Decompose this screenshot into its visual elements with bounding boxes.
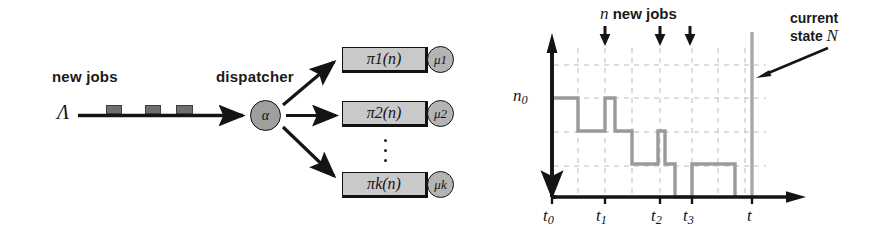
queue-policy-arg-1: (n) [383,50,402,67]
x-axis-tick-label-t3: t3 [683,207,694,227]
server-circle-1[interactable]: μ1 [427,46,454,73]
y-axis-tick-base: n [513,86,522,105]
server-rate-index-1: 1 [441,51,448,66]
queue-box-k[interactable]: πk(n) [342,172,428,198]
dispatcher-symbol: α [250,100,281,131]
x-axis-tick-base-4: t [747,206,752,225]
job-square [145,105,161,114]
x-axis-tick-sub-2: 2 [656,213,662,227]
queue-box-2[interactable]: π2(n) [342,101,428,127]
y-axis-tick-label-n0: n0 [513,87,528,107]
arrival-marker-arrows [600,26,696,46]
current-state-symbol: N [827,26,838,45]
queue-policy-base-2: π [367,104,375,121]
queue-policy-label-1: π1(n) [343,50,425,68]
server-rate-label-1: μ1 [428,51,453,67]
x-axis-tick-sub-3: 3 [688,213,694,227]
queue-ellipsis-dot [384,159,387,162]
current-state-pointer-arrow [756,48,828,78]
new-jobs-count-symbol: n [600,4,609,23]
queue-policy-arg-2: (n) [383,104,402,121]
queue-policy-arg-k: (n) [382,175,401,192]
queue-policy-label-2: π2(n) [343,104,425,122]
arrival-marker-arrow-1 [600,26,611,46]
server-rate-index-2: 2 [441,105,448,120]
server-circle-k[interactable]: μk [427,171,454,198]
current-state-line2: state N [790,26,838,46]
new-jobs-label: new jobs [52,68,118,85]
queue-policy-index-1: 1 [375,50,383,67]
new-jobs-annotation: n new jobs [600,4,677,24]
x-axis-tick-sub-0: 0 [548,213,554,227]
x-axis-tick-sub-1: 1 [601,213,607,227]
server-rate-label-2: μ2 [428,105,453,121]
x-axis-tick-label-t0: t0 [543,207,554,227]
queue-policy-base-k: π [367,175,375,192]
queue-length-step-curve [552,98,735,197]
server-rate-index-k: k [441,176,447,191]
server-rate-label-k: μk [428,176,453,192]
queue-ellipsis-dot [384,149,387,152]
figure-container: new jobs dispatcher Λ α π1(n) μ1 π2(n) μ… [0,0,879,252]
arrival-marker-arrow-2 [655,26,666,46]
x-axis-tick-label-t1: t1 [596,207,607,227]
new-jobs-annotation-text: new jobs [609,5,677,22]
current-state-line1: current [790,10,838,26]
current-state-line2-prefix: state [790,28,827,44]
arrival-marker-arrow-3 [685,26,696,46]
queue-ellipsis-dot [384,139,387,142]
queue-policy-base-1: π [367,50,375,67]
dispatch-arrow-k [283,127,334,176]
arrival-rate-symbol: Λ [57,102,69,122]
job-square [176,105,193,114]
job-square [106,105,122,114]
queue-box-1[interactable]: π1(n) [342,47,428,73]
queue-policy-index-2: 2 [375,104,383,121]
dispatcher-label: dispatcher [216,68,294,85]
queue-policy-label-k: πk(n) [343,175,425,193]
x-axis-tick-label-t2: t2 [651,207,662,227]
server-circle-2[interactable]: μ2 [427,100,454,127]
x-axis-tick-label-t: t [747,207,752,227]
y-axis-tick-sub: 0 [522,93,528,107]
current-state-annotation: current state N [790,10,838,46]
